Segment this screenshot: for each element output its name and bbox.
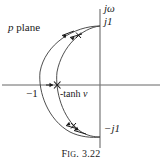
plane-word: plane — [14, 21, 41, 33]
upper-point-label: j1 — [104, 16, 113, 27]
inner-arc-curve — [57, 26, 100, 137]
imaginary-axis-label: jω — [104, 3, 115, 14]
arrow-real-axis — [46, 83, 53, 87]
p-plane-label: p plane — [8, 22, 40, 33]
minus-tanh-v-label: -tanh v — [60, 89, 88, 99]
figure-caption: FIG. 3.22 — [0, 148, 162, 159]
caption-smallcaps: IG — [67, 150, 76, 159]
minus-one-label: −1 — [26, 88, 38, 99]
tanh-prefix: -tanh — [60, 88, 83, 99]
lower-point-label: −j1 — [104, 123, 120, 134]
caption-number: . 3.22 — [76, 148, 100, 159]
figure-container: p plane jω j1 −j1 −1 -tanh v FIG. 3.22 — [0, 0, 162, 166]
tanh-variable: v — [83, 88, 87, 99]
